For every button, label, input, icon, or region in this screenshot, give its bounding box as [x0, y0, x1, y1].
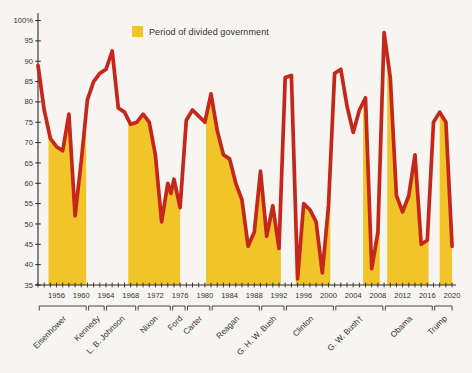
legend-label: Period of divided government [149, 27, 269, 37]
chart-legend: Period of divided government [132, 26, 269, 37]
y-tick-label: 70 [25, 138, 33, 147]
chart: 35404550556065707580859095100%1956196019… [0, 0, 472, 373]
chart-svg: 35404550556065707580859095100%1956196019… [0, 0, 472, 373]
x-tick-label: 1988 [246, 291, 263, 300]
x-tick-label: 2012 [394, 291, 411, 300]
x-tick-label: 1992 [271, 291, 288, 300]
y-tick-label: 75 [25, 118, 33, 127]
x-tick-label: 2000 [320, 291, 337, 300]
y-tick-label: 55 [25, 199, 33, 208]
x-tick-label: 2016 [419, 291, 436, 300]
y-tick-label: 85 [25, 77, 33, 86]
y-tick-label: 90 [25, 57, 33, 66]
x-tick-label: 1976 [172, 291, 189, 300]
figure-page: 35404550556065707580859095100%1956196019… [0, 0, 472, 373]
x-tick-label: 1996 [295, 291, 312, 300]
x-tick-label: 1964 [98, 291, 115, 300]
y-tick-label: 60 [25, 179, 33, 188]
y-tick-label: 35 [25, 281, 33, 290]
y-tick-label: 95 [25, 36, 33, 45]
y-tick-label: 45 [25, 240, 33, 249]
y-tick-label: 40 [25, 260, 33, 269]
y-tick-label: 100% [14, 16, 34, 25]
y-tick-label: 50 [25, 220, 33, 229]
y-tick-label: 65 [25, 159, 33, 168]
x-tick-label: 1960 [73, 291, 90, 300]
x-tick-label: 1980 [196, 291, 213, 300]
y-tick-label: 80 [25, 97, 33, 106]
x-tick-label: 2004 [345, 291, 362, 300]
divided-government-swatch-icon [132, 26, 143, 37]
x-tick-label: 1956 [48, 291, 65, 300]
x-tick-label: 1972 [147, 291, 164, 300]
x-tick-label: 2008 [369, 291, 386, 300]
x-tick-label: 1984 [221, 291, 238, 300]
x-tick-label: 2020 [444, 291, 461, 300]
x-tick-label: 1968 [122, 291, 139, 300]
